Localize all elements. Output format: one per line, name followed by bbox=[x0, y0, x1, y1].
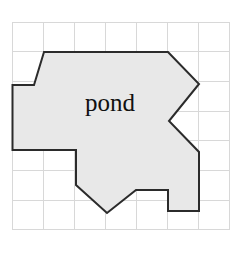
pond-grid-figure: pond bbox=[0, 0, 242, 259]
pond-label: pond bbox=[85, 89, 136, 116]
pond-diagram-svg: pond bbox=[0, 0, 242, 259]
